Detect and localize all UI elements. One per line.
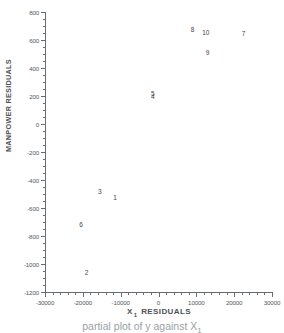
y-axis-minor-tick — [43, 26, 46, 27]
y-axis-major-tick — [41, 12, 46, 13]
x-axis-minor-tick — [211, 292, 212, 295]
y-axis-minor-tick — [43, 159, 46, 160]
x-axis-minor-tick — [264, 292, 265, 295]
y-axis-major-tick — [41, 124, 46, 125]
x-axis-minor-tick — [204, 292, 205, 295]
x-axis-tick-label: 20000 — [226, 299, 242, 306]
x-axis-tick-label: -20000 — [74, 299, 92, 306]
y-axis-minor-tick — [43, 243, 46, 244]
y-axis-tick-label: -800 — [27, 233, 39, 240]
y-axis-tick-label: -200 — [27, 149, 39, 156]
y-axis-tick-label: 800 — [29, 9, 39, 16]
y-axis-minor-tick — [43, 271, 46, 272]
x-axis-minor-tick — [53, 292, 54, 295]
y-axis-minor-tick — [43, 187, 46, 188]
x-axis-title-rest: RESIDUALS — [141, 307, 191, 316]
figure-caption-text: partial plot of y against X — [82, 320, 197, 332]
y-axis-minor-tick — [43, 138, 46, 139]
x-axis-minor-tick — [75, 292, 76, 295]
y-axis-minor-tick — [43, 215, 46, 216]
data-point-label: 10 — [202, 30, 209, 37]
y-axis-tick-label: 0 — [36, 121, 39, 128]
y-axis-minor-tick — [43, 47, 46, 48]
x-axis-minor-tick — [113, 292, 114, 295]
x-axis-minor-tick — [143, 292, 144, 295]
data-point-label: 3 — [98, 189, 102, 196]
x-axis-minor-tick — [128, 292, 129, 295]
x-axis-title-base: X — [127, 307, 133, 316]
y-axis-minor-tick — [43, 173, 46, 174]
y-axis-minor-tick — [43, 19, 46, 20]
x-axis-minor-tick — [242, 292, 243, 295]
y-axis-minor-tick — [43, 194, 46, 195]
x-axis-major-tick — [45, 292, 46, 297]
plot-area: -1200-1000-800-600-400-2000200400600800-… — [45, 12, 272, 292]
y-axis-minor-tick — [43, 222, 46, 223]
y-axis-tick-label: -1200 — [24, 289, 39, 296]
y-axis-minor-tick — [43, 285, 46, 286]
y-axis-tick-label: -1000 — [24, 261, 39, 268]
x-axis-major-tick — [272, 292, 273, 297]
x-axis-minor-tick — [151, 292, 152, 295]
y-axis-minor-tick — [43, 250, 46, 251]
y-axis-major-tick — [41, 96, 46, 97]
data-point-label: 1 — [113, 195, 117, 202]
x-axis-minor-tick — [98, 292, 99, 295]
y-axis-tick-label: -600 — [27, 205, 39, 212]
x-axis-major-tick — [83, 292, 84, 297]
x-axis-tick-label: 10000 — [188, 299, 204, 306]
x-axis-major-tick — [196, 292, 197, 297]
y-axis-tick-label: 400 — [29, 65, 39, 72]
y-axis-minor-tick — [43, 61, 46, 62]
y-axis-major-tick — [41, 264, 46, 265]
x-axis-minor-tick — [166, 292, 167, 295]
y-axis-minor-tick — [43, 201, 46, 202]
figure-caption: partial plot of y against X1 — [0, 320, 284, 333]
y-axis-minor-tick — [43, 110, 46, 111]
y-axis-tick-label: 600 — [29, 37, 39, 44]
x-axis-minor-tick — [106, 292, 107, 295]
y-axis-major-tick — [41, 40, 46, 41]
y-axis-minor-tick — [43, 229, 46, 230]
data-point-label: 8 — [191, 27, 195, 34]
y-axis-major-tick — [41, 180, 46, 181]
data-point-label: 2 — [85, 270, 89, 277]
x-axis-title-subscript: 1 — [133, 312, 139, 318]
y-axis-minor-tick — [43, 117, 46, 118]
x-axis-minor-tick — [181, 292, 182, 295]
x-axis-major-tick — [234, 292, 235, 297]
scatter-plot-figure: -1200-1000-800-600-400-2000200400600800-… — [0, 0, 284, 333]
figure-caption-subscript: 1 — [197, 326, 201, 333]
x-axis-tick-label: -10000 — [111, 299, 129, 306]
y-axis-minor-tick — [43, 82, 46, 83]
x-axis-minor-tick — [60, 292, 61, 295]
x-axis-minor-tick — [189, 292, 190, 295]
x-axis-minor-tick — [249, 292, 250, 295]
y-axis-major-tick — [41, 208, 46, 209]
y-axis-major-tick — [41, 152, 46, 153]
y-axis-minor-tick — [43, 89, 46, 90]
y-axis-minor-tick — [43, 103, 46, 104]
data-point-label: 6 — [79, 222, 83, 229]
y-axis-minor-tick — [43, 75, 46, 76]
x-axis-minor-tick — [90, 292, 91, 295]
x-axis-minor-tick — [227, 292, 228, 295]
data-point-label: 7 — [242, 31, 246, 38]
x-axis-minor-tick — [68, 292, 69, 295]
x-axis-tick-label: 0 — [157, 299, 160, 306]
x-axis-major-tick — [159, 292, 160, 297]
x-axis-tick-label: 30000 — [264, 299, 280, 306]
y-axis-title: MANPOWER RESIDUALS — [4, 59, 13, 152]
x-axis-minor-tick — [136, 292, 137, 295]
y-axis-minor-tick — [43, 54, 46, 55]
x-axis-minor-tick — [174, 292, 175, 295]
x-axis-major-tick — [121, 292, 122, 297]
x-axis-title: X1 RESIDUALS — [45, 307, 273, 318]
data-point-label: 9 — [206, 49, 210, 56]
y-axis-minor-tick — [43, 145, 46, 146]
y-axis-minor-tick — [43, 33, 46, 34]
x-axis-minor-tick — [219, 292, 220, 295]
y-axis-major-tick — [41, 68, 46, 69]
y-axis-major-tick — [41, 236, 46, 237]
y-axis-minor-tick — [43, 131, 46, 132]
